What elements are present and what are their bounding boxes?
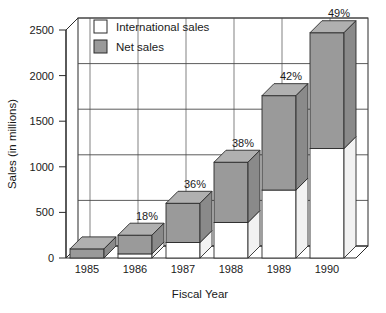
bar-group-1986[interactable] bbox=[118, 223, 164, 258]
bar-1987-intl-front[interactable] bbox=[166, 243, 200, 259]
x-tick-label-1986: 1986 bbox=[123, 263, 147, 275]
legend-label-net-sales: Net sales bbox=[116, 41, 164, 53]
y-tick-label-500: 500 bbox=[36, 206, 54, 218]
x-tick-label-1985: 1985 bbox=[75, 263, 99, 275]
pct-label-1989: 42% bbox=[280, 70, 302, 82]
bar-1987-net-front[interactable] bbox=[166, 203, 200, 242]
y-tick-label-2500: 2500 bbox=[30, 24, 54, 36]
bar-1986-intl-front[interactable] bbox=[118, 254, 152, 258]
bar-1990-intl-side bbox=[344, 137, 356, 258]
bar-group-1988[interactable] bbox=[214, 150, 260, 258]
x-axis-title: Fiscal Year bbox=[172, 288, 228, 300]
x-tick-label-1989: 1989 bbox=[267, 263, 291, 275]
bar-group-1987[interactable] bbox=[166, 191, 212, 258]
y-tick-label-0: 0 bbox=[48, 252, 54, 264]
y-axis-title: Sales (in millions) bbox=[6, 99, 18, 189]
bar-1988-intl-front[interactable] bbox=[214, 222, 248, 258]
pct-label-1986: 18% bbox=[136, 210, 158, 222]
bar-1988-net-side bbox=[248, 150, 260, 222]
bar-1990-intl-front[interactable] bbox=[310, 149, 344, 258]
y-tick-label-1000: 1000 bbox=[30, 161, 54, 173]
x-axis-labels: 1985 1986 1987 1988 1989 1990 bbox=[75, 263, 339, 275]
bar-1985-net-front[interactable] bbox=[70, 249, 104, 258]
y-tick-label-2000: 2000 bbox=[30, 70, 54, 82]
x-tick-label-1987: 1987 bbox=[171, 263, 195, 275]
bar-1989-intl-side bbox=[296, 178, 308, 258]
x-tick-label-1988: 1988 bbox=[219, 263, 243, 275]
bar-1989-intl-front[interactable] bbox=[262, 190, 296, 258]
pct-label-1987: 36% bbox=[184, 178, 206, 190]
depth-line-7 bbox=[356, 246, 368, 258]
legend-swatch-international-sales bbox=[94, 20, 107, 33]
pct-label-1988: 38% bbox=[232, 137, 254, 149]
chart-container: 2500 2000 1500 1000 500 0 Sales (in mill… bbox=[0, 0, 386, 313]
bar-group-1990[interactable] bbox=[310, 21, 356, 258]
sales-bar-chart: 2500 2000 1500 1000 500 0 Sales (in mill… bbox=[0, 0, 386, 313]
pct-label-1990: 49% bbox=[328, 7, 350, 19]
x-tick-label-1990: 1990 bbox=[315, 263, 339, 275]
bar-1990-net-side bbox=[344, 21, 356, 149]
bar-1986-net-front[interactable] bbox=[118, 235, 152, 254]
legend-label-international-sales: International sales bbox=[116, 21, 210, 33]
y-axis: 2500 2000 1500 1000 500 0 bbox=[30, 24, 66, 264]
plot-left-depth-edge bbox=[66, 18, 78, 258]
bar-1989-net-side bbox=[296, 84, 308, 190]
bar-1990-net-front[interactable] bbox=[310, 33, 344, 149]
bar-1989-net-front[interactable] bbox=[262, 96, 296, 190]
y-tick-label-1500: 1500 bbox=[30, 115, 54, 127]
legend-swatch-net-sales bbox=[94, 40, 107, 53]
bar-group-1989[interactable] bbox=[262, 84, 308, 258]
bar-1988-net-front[interactable] bbox=[214, 162, 248, 222]
bar-group-1985[interactable] bbox=[70, 237, 116, 258]
